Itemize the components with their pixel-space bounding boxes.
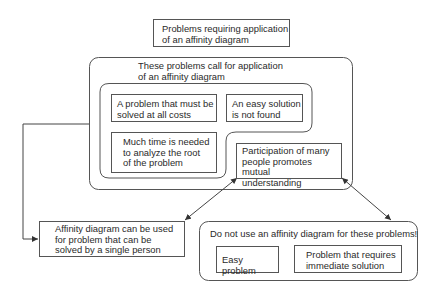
title-line-2: of an affinity diagram	[162, 35, 289, 46]
easy-solution-not-found-box: An easy solution is not found	[226, 94, 303, 122]
title-line-1: Problems requiring application	[162, 24, 289, 35]
easy-problem-box: Easy problem	[216, 246, 279, 273]
arrow-participation-to-single-person	[185, 178, 237, 220]
arrow-participation-to-do-not-use	[342, 178, 391, 220]
call-for-group-heading: These problems call for application of a…	[138, 61, 283, 82]
much-time-needed-box: Much time is needed to analyze the root …	[111, 132, 217, 173]
single-person-box: Affinity diagram can be used for problem…	[39, 221, 185, 257]
do-not-use-heading: Do not use an affinity diagram for these…	[210, 229, 417, 240]
immediate-solution-box: Problem that requires immediate solution	[294, 245, 402, 273]
participation-box: Participation of many people promotes mu…	[236, 143, 342, 179]
title-box: Problems requiring application of an aff…	[153, 19, 290, 47]
problem-must-solve-box: A problem that must be solved at all cos…	[111, 94, 217, 122]
